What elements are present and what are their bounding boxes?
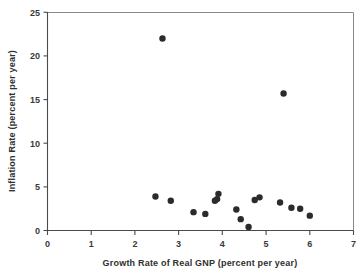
x-tick-label-7: 7	[351, 239, 356, 249]
data-point	[297, 205, 303, 211]
y-tick-label-20: 20	[30, 51, 40, 61]
data-point	[233, 206, 239, 212]
y-tick-label-5: 5	[35, 182, 40, 192]
plot-canvas: 0 5 10 15 20 25 0 1 2 3 4 5 6 7	[0, 0, 363, 277]
y-tick-label-10: 10	[30, 139, 40, 149]
data-point	[245, 224, 251, 230]
data-point	[238, 216, 244, 222]
plot-frame	[48, 13, 354, 231]
data-point	[288, 205, 294, 211]
data-point	[280, 90, 286, 96]
data-point	[277, 199, 283, 205]
data-points-layer	[152, 35, 313, 230]
data-point	[202, 211, 208, 217]
x-tick-label-2: 2	[132, 239, 137, 249]
x-axis-title: Growth Rate of Real GNP (percent per yea…	[103, 258, 298, 268]
y-axis-tick-labels: 0 5 10 15 20 25	[30, 8, 40, 236]
data-point	[159, 35, 165, 41]
data-point	[307, 212, 313, 218]
scatter-plot-figure: 0 5 10 15 20 25 0 1 2 3 4 5 6 7	[0, 0, 363, 277]
y-tick-label-25: 25	[30, 8, 40, 18]
y-tick-label-0: 0	[35, 226, 40, 236]
x-tick-label-4: 4	[220, 239, 225, 249]
x-tick-label-0: 0	[45, 239, 50, 249]
data-point	[152, 193, 158, 199]
x-tick-label-3: 3	[176, 239, 181, 249]
frame-top-right	[48, 13, 354, 231]
data-point	[190, 209, 196, 215]
y-axis-title: Inflation Rate (percent per year)	[7, 50, 17, 192]
data-point	[215, 191, 221, 197]
x-axis-tick-labels: 0 1 2 3 4 5 6 7	[45, 239, 356, 249]
data-point	[256, 194, 262, 200]
x-tick-label-5: 5	[264, 239, 269, 249]
x-axis-ticks	[48, 231, 354, 236]
y-tick-label-15: 15	[30, 95, 40, 105]
x-tick-label-1: 1	[89, 239, 94, 249]
x-tick-label-6: 6	[307, 239, 312, 249]
y-axis-ticks	[44, 12, 48, 230]
data-point	[168, 198, 174, 204]
